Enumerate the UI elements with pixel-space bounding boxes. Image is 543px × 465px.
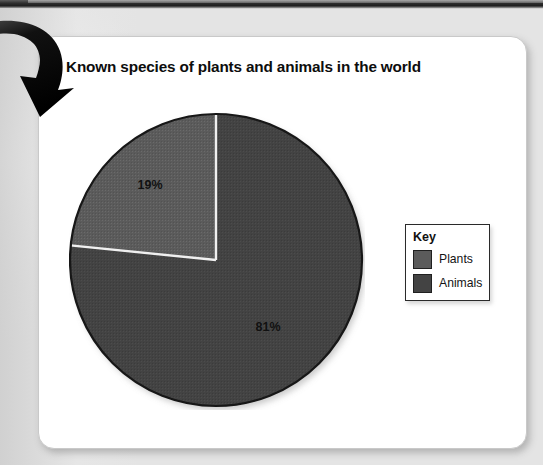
pie-chart-svg: 19% 81% [69,112,365,410]
chart-legend: Key Plants Animals [405,224,490,301]
legend-swatch-plants [413,250,432,269]
legend-item-plants: Plants [413,250,473,269]
legend-title: Key [413,230,436,244]
legend-label-plants: Plants [439,253,473,265]
legend-swatch-animals [413,274,432,293]
page-title: Known species of plants and animals in t… [66,58,516,76]
page-top-edge-band [0,0,543,9]
slide-screenshot: Known species of plants and animals in t… [0,0,543,465]
legend-label-animals: Animals [439,277,482,289]
pie-label-animals: 81% [255,320,280,334]
curved-down-arrow-shape [0,21,74,117]
pie-chart: 19% 81% [69,112,365,410]
pie-label-plants: 19% [137,178,162,192]
page-top-edge-highlight [28,0,543,3]
legend-item-animals: Animals [413,274,482,293]
curved-down-arrow-icon [0,18,78,118]
